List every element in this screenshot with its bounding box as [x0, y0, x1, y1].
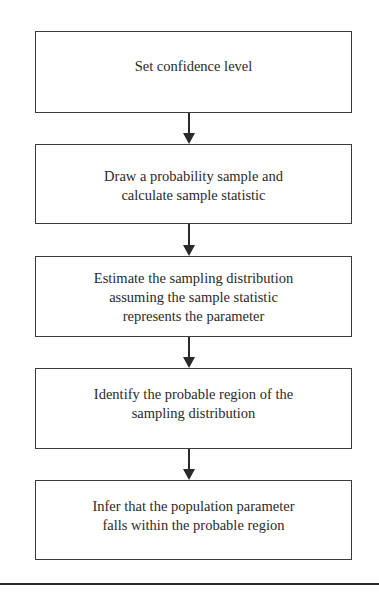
flowchart-step-5: Infer that the population parameter fall…	[35, 480, 352, 560]
step-1-label: Set confidence level	[36, 57, 351, 76]
arrow-shaft	[188, 224, 190, 247]
flowchart-step-3: Estimate the sampling distribution assum…	[35, 256, 352, 337]
arrow-down-icon	[183, 113, 195, 144]
step-3-label: Estimate the sampling distribution assum…	[36, 269, 351, 326]
arrow-shaft	[188, 337, 190, 359]
flowchart-step-4: Identify the probable region of the samp…	[35, 368, 352, 449]
flowchart-step-1: Set confidence level	[35, 31, 352, 113]
step-2-label: Draw a probability sample and calculate …	[36, 167, 351, 205]
arrow-down-icon	[183, 224, 195, 256]
arrow-down-icon	[183, 337, 195, 368]
horizontal-divider	[0, 583, 379, 585]
arrow-head	[183, 469, 195, 480]
arrow-head	[183, 245, 195, 256]
flowchart-step-2: Draw a probability sample and calculate …	[35, 144, 352, 224]
arrow-head	[183, 133, 195, 144]
step-4-label: Identify the probable region of the samp…	[36, 385, 351, 423]
step-5-label: Infer that the population parameter fall…	[36, 497, 351, 535]
arrow-down-icon	[183, 449, 195, 480]
arrow-shaft	[188, 449, 190, 471]
arrow-head	[183, 357, 195, 368]
arrow-shaft	[188, 113, 190, 135]
